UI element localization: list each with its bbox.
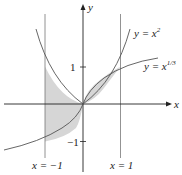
label-x-1: x = 1	[109, 159, 133, 171]
area-between-curves-chart: y x 1 −1 y = x2 y = x1/3 x = −1 x = 1	[0, 0, 182, 175]
y-tick-label-1: 1	[70, 61, 76, 73]
label-cube-root: y = x1/3	[143, 59, 176, 72]
y-tick-label-neg1: −1	[67, 136, 79, 148]
label-x-squared: y = x2	[133, 26, 161, 39]
y-axis-label: y	[87, 1, 93, 13]
shaded-region-right	[83, 67, 121, 105]
x-axis-arrow-icon	[166, 102, 172, 107]
y-axis-arrow-icon	[81, 4, 86, 10]
label-x-neg1: x = −1	[31, 159, 63, 171]
x-axis-label: x	[173, 98, 179, 110]
